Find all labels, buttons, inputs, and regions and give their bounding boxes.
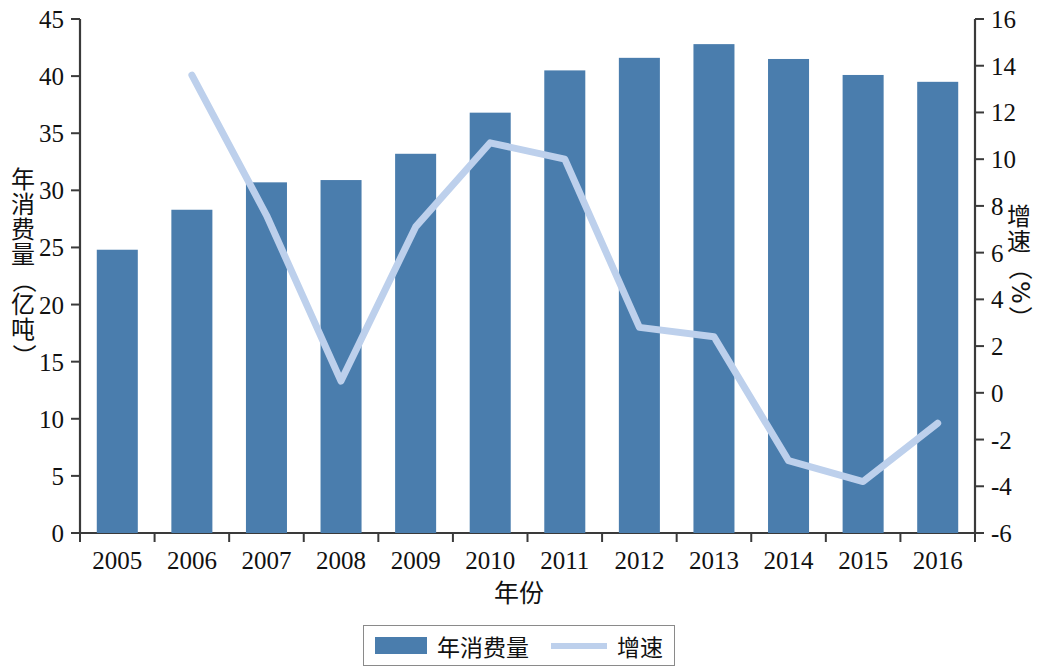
y-axis-right-tick-label: 8 bbox=[991, 193, 1004, 220]
y-axis-right-tick-label: 2 bbox=[991, 333, 1004, 360]
x-axis-title: 年份 bbox=[0, 573, 1038, 609]
legend-bar-swatch-icon bbox=[375, 637, 427, 654]
x-axis-tick-label: 2012 bbox=[614, 547, 664, 574]
y-axis-right-tick-label: 4 bbox=[991, 286, 1004, 313]
legend-bar-label: 年消费量 bbox=[437, 629, 529, 663]
axis-title-char: 增 bbox=[1004, 205, 1034, 230]
bar-2006[interactable] bbox=[171, 210, 212, 533]
bar-2016[interactable] bbox=[917, 82, 958, 533]
y-axis-left-tick-label: 30 bbox=[39, 177, 64, 204]
legend-item-bar[interactable]: 年消费量 bbox=[375, 629, 529, 663]
y-axis-right-tick-label: 14 bbox=[991, 53, 1017, 80]
bar-2010[interactable] bbox=[470, 113, 511, 533]
y-axis-left-tick-label: 15 bbox=[39, 349, 64, 376]
x-axis-tick-label: 2014 bbox=[764, 547, 815, 574]
chart-container: 051015202530354045-6-4-20246810121416200… bbox=[0, 0, 1038, 666]
y-axis-right-tick-label: 6 bbox=[991, 240, 1004, 267]
y-axis-right-tick-label: -4 bbox=[991, 473, 1012, 500]
y-axis-left-tick-label: 40 bbox=[39, 63, 64, 90]
y-axis-right-tick-label: 16 bbox=[991, 6, 1016, 33]
x-axis-tick-label: 2011 bbox=[540, 547, 589, 574]
axis-title-char: 亿 bbox=[8, 293, 38, 318]
y-axis-left-tick-label: 25 bbox=[39, 234, 64, 261]
y-axis-left-tick-label: 20 bbox=[39, 292, 64, 319]
x-axis-tick-label: 2013 bbox=[689, 547, 739, 574]
x-axis-tick-label: 2008 bbox=[316, 547, 366, 574]
y-axis-left-title: 年消费量（亿吨） bbox=[8, 168, 38, 368]
x-axis-tick-label: 2005 bbox=[92, 547, 142, 574]
x-axis-tick-label: 2007 bbox=[241, 547, 291, 574]
axis-title-char: 吨 bbox=[8, 318, 38, 343]
axis-title-char: ） bbox=[11, 341, 36, 371]
y-axis-left-tick-label: 45 bbox=[39, 6, 64, 33]
bar-2011[interactable] bbox=[544, 70, 585, 533]
y-axis-left-tick-label: 0 bbox=[52, 520, 65, 547]
y-axis-right-tick-label: 0 bbox=[991, 380, 1004, 407]
y-axis-left-tick-label: 5 bbox=[52, 463, 65, 490]
axis-title-char: 消 bbox=[8, 193, 38, 218]
bar-2007[interactable] bbox=[246, 182, 287, 533]
x-axis-tick-label: 2010 bbox=[465, 547, 515, 574]
legend-line-label: 增速 bbox=[617, 629, 663, 663]
x-axis-tick-label: 2006 bbox=[167, 547, 217, 574]
axis-title-char: 量 bbox=[8, 243, 38, 268]
y-axis-right-tick-label: 10 bbox=[991, 146, 1016, 173]
x-axis-tick-label: 2015 bbox=[838, 547, 888, 574]
y-axis-right-tick-label: 12 bbox=[991, 99, 1016, 126]
x-axis-tick-label: 2016 bbox=[913, 547, 963, 574]
axis-title-char: 费 bbox=[8, 218, 38, 243]
legend-item-line[interactable]: 增速 bbox=[551, 629, 663, 663]
y-axis-left-tick-label: 35 bbox=[39, 120, 64, 147]
axis-title-char: 年 bbox=[8, 168, 38, 193]
x-axis-tick-label: 2009 bbox=[391, 547, 441, 574]
y-axis-right-tick-label: -6 bbox=[991, 520, 1012, 547]
axis-title-char: 速 bbox=[1004, 230, 1034, 255]
axis-title-char: （ bbox=[11, 266, 36, 296]
bar-2013[interactable] bbox=[693, 44, 734, 533]
chart-legend: 年消费量 增速 bbox=[363, 625, 675, 666]
y-axis-right-tick-label: -2 bbox=[991, 427, 1012, 454]
axis-title-char: ） bbox=[1007, 303, 1032, 333]
y-axis-right-title: 增速（%） bbox=[1004, 205, 1034, 330]
legend-line-swatch-icon bbox=[551, 643, 607, 649]
bar-2005[interactable] bbox=[97, 250, 138, 533]
bar-2015[interactable] bbox=[843, 75, 884, 533]
chart-plot-area: 051015202530354045-6-4-20246810121416200… bbox=[0, 0, 1038, 666]
y-axis-left-tick-label: 10 bbox=[39, 406, 64, 433]
